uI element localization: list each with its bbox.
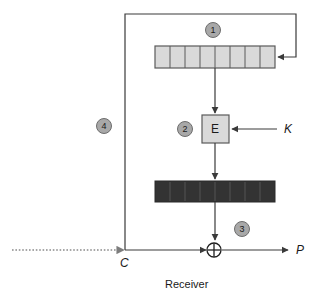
badge-3: 3 <box>234 221 250 237</box>
badge-2: 2 <box>177 121 193 137</box>
xor-operator <box>207 243 221 257</box>
key-label: K <box>284 122 292 136</box>
ciphertext-label: C <box>120 256 129 270</box>
diagram-caption: Receiver <box>165 278 208 290</box>
badge-4: 4 <box>96 118 112 134</box>
shift-register <box>155 46 275 68</box>
keystream-register <box>155 181 275 202</box>
plaintext-label: P <box>296 243 304 257</box>
badge-1: 1 <box>205 22 221 38</box>
diagram-canvas <box>0 0 320 301</box>
encrypt-box-label: E <box>211 122 219 136</box>
cfb-receiver-diagram: E 1 2 3 4 C K P Receiver <box>0 0 320 301</box>
